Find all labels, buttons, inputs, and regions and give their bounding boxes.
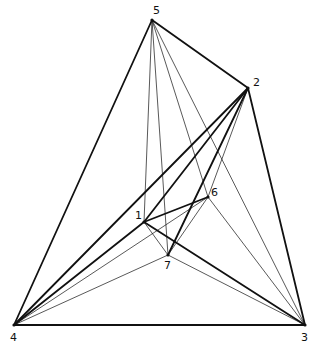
edge-2-3 [248,88,305,325]
vertex-1 [142,220,145,223]
vertex-label-7: 7 [164,259,171,272]
vertex-label-6: 6 [211,186,218,199]
vertex-label-1: 1 [135,209,142,222]
edge-7-3 [168,255,305,325]
edge-5-1 [144,20,152,222]
vertex-2 [246,86,249,89]
complete-graph-diagram: 1234567 [0,0,314,345]
vertex-7 [166,253,169,256]
vertex-label-5: 5 [153,4,160,17]
edge-5-7 [152,20,168,255]
edge-4-2 [14,88,248,325]
vertex-4 [12,323,15,326]
edge-1-3 [144,222,305,325]
vertex-5 [150,18,153,21]
edge-7-4 [14,255,168,325]
vertex-label-3: 3 [301,331,308,344]
edges-group [14,20,305,325]
vertex-3 [303,323,306,326]
edge-2-6 [208,88,248,197]
vertex-label-2: 2 [253,76,260,89]
edge-5-2 [152,20,248,88]
edge-5-3 [152,20,305,325]
vertex-label-4: 4 [10,331,17,344]
vertex-6 [206,195,209,198]
edge-1-4 [14,222,144,325]
edge-7-2 [168,88,248,255]
edge-5-6 [152,20,208,197]
edge-1-7 [144,222,168,255]
